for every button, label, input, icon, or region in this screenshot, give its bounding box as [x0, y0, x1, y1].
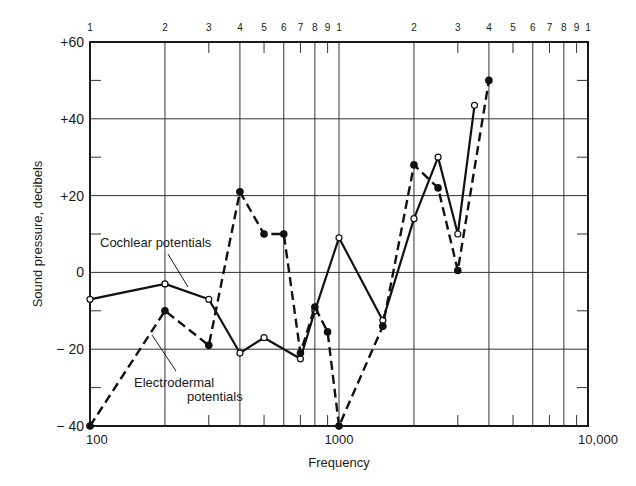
- x-tick-label: 1000: [325, 432, 354, 447]
- top-cycle-label: 5: [261, 22, 267, 33]
- electrodermal-point-marker: [455, 267, 461, 273]
- electrodermal-point-marker: [206, 342, 212, 348]
- x-tick-label: 10,000: [578, 432, 618, 447]
- top-cycle-label: 4: [486, 22, 492, 33]
- top-cycle-label: 7: [547, 22, 553, 33]
- top-cycle-label: 6: [530, 22, 536, 33]
- top-cycle-label: 2: [162, 22, 168, 33]
- x-axis-label: Frequency: [308, 455, 370, 470]
- electrodermal-label-line1: Electrodermal: [134, 375, 214, 390]
- cochlear-point-marker: [206, 296, 212, 302]
- electrodermal-point-marker: [237, 189, 243, 195]
- y-tick-label: +60: [60, 34, 84, 50]
- electrodermal-point-marker: [297, 350, 303, 356]
- top-cycle-label: 1: [336, 22, 342, 33]
- top-cycle-label: 5: [510, 22, 516, 33]
- chart: 1234567891234567891 +60+40+200− 20− 40 1…: [0, 0, 636, 486]
- electrodermal-point-marker: [336, 423, 342, 429]
- electrodermal-label-line2: potentials: [187, 389, 243, 404]
- grid-lines: [90, 42, 588, 426]
- electrodermal-point-marker: [312, 304, 318, 310]
- top-cycle-label: 8: [312, 22, 318, 33]
- top-cycle-label: 1: [87, 22, 93, 33]
- electrodermal-point-marker: [411, 162, 417, 168]
- y-tick-label: − 20: [56, 341, 84, 357]
- cochlear-pointer: [168, 254, 188, 287]
- electrodermal-point-marker: [486, 77, 492, 83]
- cochlear-annotation: Cochlear potentials: [100, 235, 212, 287]
- electrodermal-point-marker: [87, 423, 93, 429]
- electrodermal-point-marker: [162, 308, 168, 314]
- top-cycle-label: 6: [281, 22, 287, 33]
- top-cycle-label: 1: [585, 22, 591, 33]
- cochlear-label: Cochlear potentials: [100, 235, 212, 250]
- top-cycle-label: 8: [561, 22, 567, 33]
- electrodermal-point-marker: [261, 231, 267, 237]
- top-cycle-label: 9: [574, 22, 580, 33]
- top-cycle-label: 3: [206, 22, 212, 33]
- top-cycle-label: 4: [237, 22, 243, 33]
- electrodermal-point-marker: [435, 185, 441, 191]
- electrodermal-pointer: [152, 335, 176, 371]
- electrodermal-point-marker: [281, 231, 287, 237]
- top-cycle-label: 9: [325, 22, 331, 33]
- top-cycle-label: 2: [411, 22, 417, 33]
- cochlear-point-marker: [237, 350, 243, 356]
- electrodermal-annotation: Electrodermal potentials: [134, 335, 243, 404]
- cochlear-point-marker: [336, 235, 342, 241]
- y-tick-labels: +60+40+200− 20− 40: [56, 34, 84, 434]
- cochlear-point-marker: [455, 231, 461, 237]
- top-cycle-labels: 1234567891234567891: [87, 22, 591, 33]
- cochlear-point-marker: [411, 216, 417, 222]
- electrodermal-point-marker: [324, 329, 330, 335]
- y-tick-label: +20: [60, 188, 84, 204]
- cochlear-point-marker: [162, 281, 168, 287]
- y-axis-label: Sound pressure, decibels: [30, 160, 45, 307]
- x-tick-labels: 100100010,000: [86, 432, 618, 447]
- x-tick-label: 100: [86, 432, 108, 447]
- y-tick-label: − 40: [56, 418, 84, 434]
- cochlear-point-marker: [471, 102, 477, 108]
- top-cycle-label: 7: [298, 22, 304, 33]
- y-tick-label: +40: [60, 111, 84, 127]
- cochlear-point-marker: [261, 335, 267, 341]
- cochlear-point-marker: [435, 154, 441, 160]
- electrodermal-point-marker: [380, 323, 386, 329]
- y-tick-label: 0: [76, 264, 84, 280]
- top-cycle-label: 3: [455, 22, 461, 33]
- cochlear-point-marker: [87, 296, 93, 302]
